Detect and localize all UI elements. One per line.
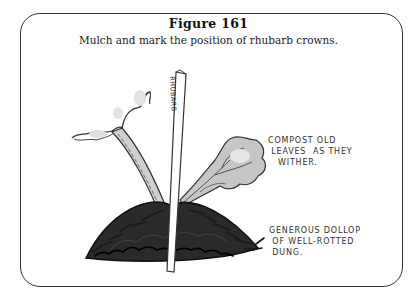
right-leaf xyxy=(180,137,265,206)
annotation-compost: COMPOST OLD LEAVES AS THEY WITHER. xyxy=(268,135,352,168)
annotation-dung: GENEROUS DOLLOP OF WELL-ROTTED DUNG. xyxy=(269,225,361,258)
left-stalk xyxy=(72,90,168,215)
